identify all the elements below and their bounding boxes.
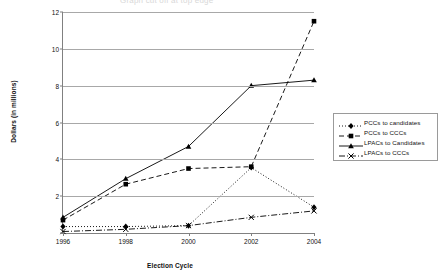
y-tick-mark (60, 48, 63, 49)
data-point-marker (311, 77, 317, 82)
legend-item[interactable]: LPACs to CCCs (336, 147, 435, 157)
legend-label: LPACs to Candidates (364, 139, 425, 146)
x-tick-mark (314, 233, 315, 236)
x-tick-label: 1998 (119, 238, 133, 245)
chart-figure: Graph cut off at top edge Dollars (in mi… (0, 0, 442, 280)
legend-item[interactable]: PCCs to candidates (336, 117, 435, 127)
legend-key-cross-icon (338, 147, 364, 157)
y-tick-label: 4 (55, 156, 59, 163)
gridline (63, 12, 314, 13)
y-tick-label: 6 (55, 119, 59, 126)
gridline (63, 49, 314, 50)
x-tick-label: 2004 (307, 238, 321, 245)
gridline (63, 159, 314, 160)
x-tick-label: 2002 (244, 238, 258, 245)
y-tick-label: 12 (52, 9, 59, 16)
x-tick-label: 2000 (181, 238, 195, 245)
y-tick-mark (60, 12, 63, 13)
y-tick-mark (60, 122, 63, 123)
y-axis-title: Dollars (in millions) (10, 62, 17, 162)
legend-label: LPACs to CCCs (364, 149, 409, 156)
x-tick-mark (63, 233, 64, 236)
top-title-strip: Graph cut off at top edge (0, 0, 442, 8)
legend-item[interactable]: PCCs to CCCs (336, 127, 435, 137)
legend-key-diamond-icon (338, 117, 364, 127)
y-tick-mark (60, 196, 63, 197)
y-tick-label: 10 (52, 45, 59, 52)
data-point-marker (60, 215, 66, 220)
gridline (63, 86, 314, 87)
gridline (63, 196, 314, 197)
cut-off-title: Graph cut off at top edge (120, 0, 213, 5)
y-tick-mark (60, 85, 63, 86)
y-tick-label: 2 (55, 193, 59, 200)
gridline (63, 123, 314, 124)
data-point-marker (186, 166, 191, 171)
legend-key-triangle-icon (338, 137, 364, 147)
x-tick-mark (126, 233, 127, 236)
y-tick-label: 8 (55, 82, 59, 89)
data-point-marker (312, 19, 317, 24)
plot-area: 2468101219961998200020022004 (62, 12, 314, 234)
data-point-marker (123, 176, 129, 181)
series-line (63, 21, 314, 220)
x-tick-label: 1996 (56, 238, 70, 245)
data-point-marker (60, 224, 65, 230)
x-tick-mark (189, 233, 190, 236)
legend-label: PCCs to candidates (364, 119, 420, 126)
legend-item[interactable]: LPACs to Candidates (336, 137, 435, 147)
y-tick-mark (60, 159, 63, 160)
x-tick-mark (251, 233, 252, 236)
legend-label: PCCs to CCCs (364, 129, 406, 136)
legend-key-square-icon (338, 127, 364, 137)
chart-legend: PCCs to candidatesPCCs to CCCsLPACs to C… (333, 113, 438, 161)
data-point-marker (249, 164, 254, 169)
x-axis-title: Election Cycle (0, 262, 340, 269)
data-point-marker (123, 182, 128, 187)
